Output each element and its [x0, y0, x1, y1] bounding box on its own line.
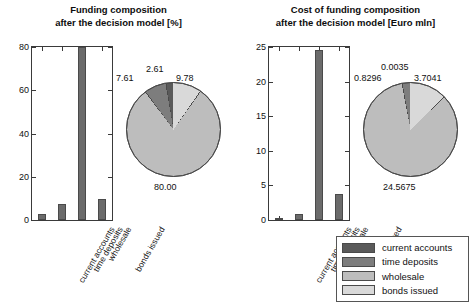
legend-swatch-time-deposits	[342, 257, 375, 267]
right-chart-title: Cost of funding composition after the de…	[237, 4, 474, 29]
right-ytick-0-right	[345, 220, 349, 221]
right-xtick-1-top	[279, 47, 280, 51]
right-ytick-0	[269, 220, 273, 221]
right-ylabel-0: 0	[261, 215, 266, 225]
left-xtick-4-top	[102, 47, 103, 51]
left-xtick-1-top	[42, 47, 43, 51]
right-ytick-20-right	[345, 82, 349, 83]
left-pie-label-time-deposits: 7.61	[116, 73, 134, 83]
legend-label-bonds-issued: bonds issued	[382, 285, 438, 296]
right-ylabel-20: 20	[256, 77, 266, 87]
right-chart-title-line2: after the decision model [Euro mln]	[237, 17, 474, 30]
right-ytick-5	[269, 185, 273, 186]
left-bar-bonds-issued	[98, 199, 107, 220]
legend-swatch-bonds-issued	[342, 285, 375, 295]
right-ytick-10	[269, 151, 273, 152]
left-ylabel-60: 60	[19, 85, 29, 95]
right-pie-label-current-accounts: 0.0035	[381, 62, 409, 72]
right-ytick-20	[269, 82, 273, 83]
right-ytick-25	[269, 47, 273, 48]
left-ylabel-0: 0	[24, 215, 29, 225]
right-ylabel-25: 25	[256, 42, 266, 52]
left-bar-current-accounts	[38, 214, 47, 220]
right-bar-chart-axes: 25 20 15 10 5 0	[268, 46, 350, 221]
legend-item-current-accounts: current accounts	[342, 241, 463, 254]
right-ylabel-10: 10	[256, 146, 266, 156]
left-ytick-20	[32, 177, 36, 178]
right-pie-label-wholesale: 24.5675	[383, 182, 416, 192]
right-ytick-5-right	[345, 185, 349, 186]
left-ytick-60	[32, 90, 36, 91]
left-chart-title-line1: Funding composition	[0, 4, 237, 17]
chart-legend: current accounts time deposits wholesale…	[336, 236, 469, 302]
right-ylabel-15: 15	[256, 111, 266, 121]
legend-swatch-current-accounts	[342, 243, 375, 253]
right-bar-wholesale	[315, 50, 324, 220]
left-ytick-20-right	[108, 177, 112, 178]
left-ytick-0-right	[108, 220, 112, 221]
right-xtick-2-top	[299, 47, 300, 51]
left-ytick-80	[32, 47, 36, 48]
right-pie-slice-separators	[363, 82, 458, 177]
right-pie-label-time-deposits: 0.8296	[354, 73, 382, 83]
right-ytick-25-right	[345, 47, 349, 48]
left-ytick-60-right	[108, 90, 112, 91]
legend-item-time-deposits: time deposits	[342, 255, 463, 268]
left-chart-title: Funding composition after the decision m…	[0, 4, 237, 29]
left-xtick-2-top	[62, 47, 63, 51]
legend-label-wholesale: wholesale	[382, 271, 424, 282]
left-ytick-40	[32, 134, 36, 135]
legend-label-current-accounts: current accounts	[382, 242, 452, 253]
right-xtick-4-top	[339, 47, 340, 51]
left-pie-label-bonds-issued: 9.78	[176, 73, 194, 83]
left-ytick-40-right	[108, 134, 112, 135]
left-bar-wholesale	[78, 47, 87, 220]
left-chart-panel: Funding composition after the decision m…	[0, 0, 237, 308]
left-ytick-0	[32, 220, 36, 221]
left-pie-label-wholesale: 80.00	[154, 182, 177, 192]
legend-label-time-deposits: time deposits	[382, 256, 438, 267]
left-bar-chart-axes: 80 60 40 20 0	[31, 46, 113, 221]
left-ytick-80-right	[108, 47, 112, 48]
legend-item-bonds-issued: bonds issued	[342, 284, 463, 297]
left-bar-time-deposits	[58, 204, 67, 220]
right-pie-label-bonds-issued: 3.7041	[414, 73, 442, 83]
right-ytick-15-right	[345, 116, 349, 117]
left-ylabel-80: 80	[19, 42, 29, 52]
left-chart-title-line2: after the decision model [%]	[0, 17, 237, 30]
right-ytick-15	[269, 116, 273, 117]
left-pie-label-current-accounts: 2.61	[146, 64, 164, 74]
left-pie-slice-separators	[126, 82, 221, 177]
right-bar-bonds-issued	[335, 194, 344, 220]
right-chart-title-line1: Cost of funding composition	[237, 4, 474, 17]
left-ylabel-40: 40	[19, 129, 29, 139]
legend-swatch-wholesale	[342, 271, 375, 281]
legend-item-wholesale: wholesale	[342, 270, 463, 283]
right-bar-time-deposits	[295, 214, 304, 220]
right-bar-current-accounts	[275, 218, 284, 220]
right-ytick-10-right	[345, 151, 349, 152]
left-xlabel-bonds-issued: bonds issued	[133, 225, 167, 273]
right-ylabel-5: 5	[261, 180, 266, 190]
left-ylabel-20: 20	[19, 172, 29, 182]
